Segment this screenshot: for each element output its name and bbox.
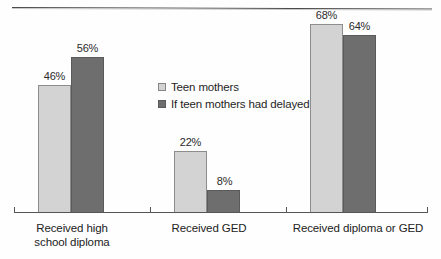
bar-value-label-group2-delayed: 8%: [205, 175, 244, 187]
light-gray-swatch-icon: [158, 83, 166, 91]
plot-area: 46% 56% 22% 8% 68% 64% Received high sch…: [0, 0, 441, 259]
x-axis-category-label-2: Received GED: [147, 222, 271, 236]
bar-group3-delayed: [343, 35, 376, 212]
dark-gray-swatch-icon: [158, 100, 166, 108]
x-axis-baseline: [14, 212, 428, 213]
bar-group2-delayed: [207, 190, 240, 212]
bar-group1-teen-mothers: [38, 85, 71, 212]
bar-group3-teen-mothers: [310, 24, 343, 212]
bar-value-label-group1-delayed: 56%: [66, 42, 109, 54]
x-axis-category-label-1: Received high school diploma: [12, 222, 132, 249]
legend-label-delayed: If teen mothers had delayed: [171, 98, 310, 110]
bar-group2-teen-mothers: [174, 151, 207, 212]
bar-value-label-group1-teen-mothers: 46%: [33, 70, 76, 82]
bar-value-label-group3-delayed: 64%: [338, 20, 381, 32]
axis-tick-group1-group2: [150, 207, 151, 212]
axis-tick-end: [427, 207, 428, 212]
legend-item-teen-mothers: Teen mothers: [158, 80, 310, 93]
x-axis-category-label-3: Received diploma or GED: [283, 222, 433, 236]
axis-tick-group2-group3: [286, 207, 287, 212]
legend-item-delayed: If teen mothers had delayed: [158, 97, 310, 110]
bar-group1-delayed: [71, 57, 104, 212]
axis-tick-start: [14, 207, 15, 212]
bar-value-label-group2-teen-mothers: 22%: [169, 136, 212, 148]
chart-legend: Teen mothers If teen mothers had delayed: [158, 80, 310, 114]
legend-label-teen-mothers: Teen mothers: [171, 81, 239, 93]
bar-chart-figure: 46% 56% 22% 8% 68% 64% Received high sch…: [0, 0, 441, 259]
